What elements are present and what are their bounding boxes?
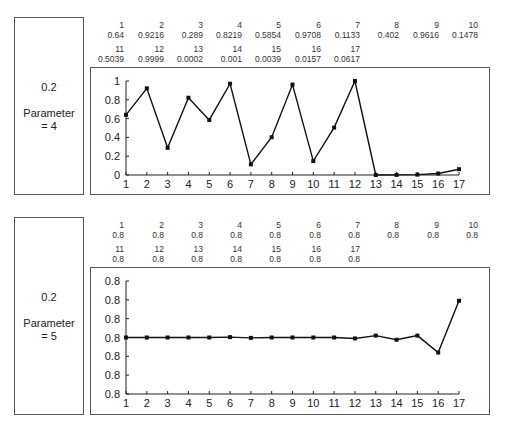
cell-index: 3 [167,220,203,230]
x-tick-label: 10 [307,178,319,190]
data-point-marker [228,335,232,339]
data-point-marker [270,135,274,139]
series-line [126,81,459,175]
data-point-marker [395,338,399,342]
data-point-marker [291,83,295,87]
parameter-label: Parameter [15,317,83,330]
cell-index: 12 [128,44,164,54]
x-tick-label: 7 [248,397,254,409]
cell-value: 0.8 [285,254,321,264]
data-point-marker [457,167,461,171]
table-cell: 50.8 [245,220,281,240]
y-tick-label: 0.8 [105,350,120,362]
data-point-marker [145,86,149,90]
y-tick-label: 0.8 [105,94,120,106]
cell-value: 0.001 [206,54,242,64]
cell-value: 0.5854 [245,30,281,40]
cell-value: 0.5039 [88,54,124,64]
x-tick-label: 2 [144,178,150,190]
data-point-marker [207,118,211,122]
parameter-value: = 4 [15,120,83,133]
x-tick-label: 1 [123,178,129,190]
x-tick-label: 11 [328,178,339,190]
cell-index: 12 [128,244,164,254]
table-cell: 90.8 [403,220,439,240]
y-tick-label: 0.8 [105,388,120,400]
x-tick-label: 4 [185,397,191,409]
cell-value: 0.8 [128,230,164,240]
table-cell: 160.0157 [285,44,321,64]
table-cell: 80.402 [363,20,399,40]
data-point-marker [311,336,315,340]
y-tick-label: 0.6 [105,113,120,125]
series-line [126,301,459,353]
cell-value: 0.9216 [128,30,164,40]
x-tick-label: 14 [390,178,402,190]
table-cell: 10.8 [88,220,124,240]
cell-index: 6 [285,20,321,30]
y-tick-label: 0.8 [105,294,120,306]
x-tick-label: 5 [206,397,212,409]
parameter-label-box: 0.2 Parameter = 5 [14,217,84,415]
table-cell: 140.001 [206,44,242,64]
cell-value: 0.402 [363,30,399,40]
cell-index: 7 [324,20,360,30]
table-cell: 70.8 [324,220,360,240]
y-tick-label: 0.2 [105,150,120,162]
data-point-marker [395,173,399,177]
cell-value: 0.8 [128,254,164,264]
table-cell: 110.5039 [88,44,124,64]
cell-value: 0.8 [88,254,124,264]
data-point-marker [249,336,253,340]
cell-value: 0.0157 [285,54,321,64]
table-cell: 60.9708 [285,20,321,40]
x-tick-label: 12 [349,178,361,190]
x-tick-label: 15 [411,397,423,409]
cell-value: 0.8 [88,230,124,240]
cell-index: 6 [285,220,321,230]
cell-value: 0.9616 [403,30,439,40]
cell-value: 0.8 [442,230,478,240]
data-point-marker [332,336,336,340]
cell-value: 0.64 [88,30,124,40]
table-cell: 130.8 [167,244,203,264]
data-point-marker [436,172,440,176]
cell-value: 0.8 [167,230,203,240]
table-cell: 100.8 [442,220,478,240]
table-cell: 70.1133 [324,20,360,40]
table-cell: 10.64 [88,20,124,40]
cell-index: 13 [167,44,203,54]
cell-index: 5 [245,220,281,230]
cell-index: 14 [206,244,242,254]
chart-plot: 00.20.40.60.811234567891011121314151617 [91,68,489,194]
data-point-marker [415,173,419,177]
x-tick-label: 8 [269,178,275,190]
line-chart: 0.80.80.80.80.80.80.81234567891011121314… [90,267,490,415]
data-point-marker [145,336,149,340]
table-cell: 170.8 [324,244,360,264]
cell-index: 10 [442,20,478,30]
y-tick-label: 0.8 [105,275,120,287]
data-point-marker [249,162,253,166]
cell-value: 0.1133 [324,30,360,40]
table-cell: 140.8 [206,244,242,264]
cell-index: 1 [88,20,124,30]
x-tick-label: 8 [269,397,275,409]
cell-index: 3 [167,20,203,30]
cell-index: 2 [128,20,164,30]
table-cell: 150.8 [245,244,281,264]
data-point-marker [186,96,190,100]
table-cell: 120.8 [128,244,164,264]
table-cell: 30.8 [167,220,203,240]
cell-value: 0.289 [167,30,203,40]
cell-index: 9 [403,220,439,230]
table-cell: 50.5854 [245,20,281,40]
x-tick-label: 6 [227,178,233,190]
table-cell: 90.9616 [403,20,439,40]
table-cell: 40.8 [206,220,242,240]
x-tick-label: 4 [185,178,191,190]
parameter-label: Parameter [15,107,83,120]
cell-index: 2 [128,220,164,230]
cell-index: 15 [245,244,281,254]
x-tick-label: 1 [123,397,129,409]
